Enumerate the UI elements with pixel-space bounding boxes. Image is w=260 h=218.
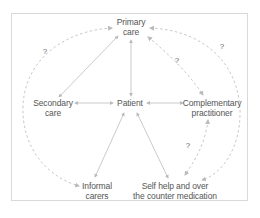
node-informal-carers: Informal carers xyxy=(82,181,112,201)
question-mark-label: ? xyxy=(43,47,47,56)
node-patient: Patient xyxy=(117,98,143,108)
link-primary-secondary xyxy=(59,36,118,97)
question-mark-label: ? xyxy=(220,42,224,51)
node-secondary-care: Secondary care xyxy=(33,98,73,118)
question-mark-label: ? xyxy=(186,141,190,150)
dashed-primary-complementary xyxy=(148,37,203,95)
link-patient-informal xyxy=(95,113,124,177)
question-mark-label: ? xyxy=(175,56,179,65)
node-primary-care: Primary care xyxy=(117,17,146,37)
link-patient-selfhelp xyxy=(137,113,168,178)
node-complementary-practitioner: Complementary practitioner xyxy=(183,98,242,118)
node-self-help: Self help and over the counter medicatio… xyxy=(133,181,217,201)
